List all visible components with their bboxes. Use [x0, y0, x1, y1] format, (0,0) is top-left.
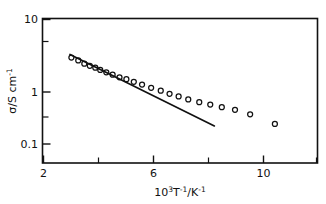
data-point	[140, 82, 145, 87]
data-point-group	[69, 55, 278, 126]
y-title-unit: cm	[6, 76, 19, 93]
data-point	[176, 94, 181, 99]
y-axis-minor-ticks	[43, 42, 49, 118]
x-title-base: 10	[154, 186, 168, 199]
data-point	[233, 107, 238, 112]
svg-text:103T-1/K-1: 103T-1/K-1	[154, 185, 206, 199]
y-axis-major-ticks	[43, 20, 51, 145]
y-title-slash: /S	[6, 96, 19, 107]
data-point	[149, 85, 154, 90]
y-tick-label-1: 1	[31, 86, 38, 99]
x-axis-minor-ticks	[99, 158, 317, 164]
data-point	[208, 102, 213, 107]
figure-container: 10 1 0.1 2 6 10 103T-1/K-1 σ/S cm-1	[0, 0, 326, 204]
data-point	[167, 91, 172, 96]
svg-text:σ/S cm-1: σ/S cm-1	[5, 68, 19, 114]
data-point	[131, 79, 136, 84]
data-point	[197, 100, 202, 105]
x-title-unit-exponent: -1	[198, 185, 206, 194]
data-point	[219, 105, 224, 110]
y-tick-label-10: 10	[24, 13, 38, 26]
data-point	[124, 77, 129, 82]
x-tick-label-6: 6	[150, 167, 157, 180]
data-point	[158, 88, 163, 93]
y-tick-label-0point1: 0.1	[21, 138, 39, 151]
x-tick-label-10: 10	[257, 167, 271, 180]
x-tick-label-2: 2	[40, 167, 47, 180]
x-axis-major-ticks	[44, 156, 264, 164]
y-axis-title: σ/S cm-1	[5, 68, 19, 114]
data-point	[186, 97, 191, 102]
plot-axes-frame	[43, 19, 318, 164]
arrhenius-plot: 10 1 0.1 2 6 10 103T-1/K-1 σ/S cm-1	[0, 0, 326, 204]
data-point	[272, 121, 277, 126]
y-title-unit-exponent: -1	[5, 68, 14, 76]
data-point	[248, 112, 253, 117]
y-title-symbol: σ	[6, 107, 19, 114]
x-axis-title: 103T-1/K-1	[154, 185, 206, 199]
